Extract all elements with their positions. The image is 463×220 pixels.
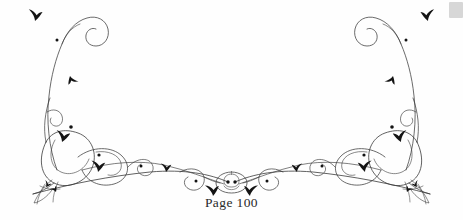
dot-icon <box>405 39 408 42</box>
leaf-icon <box>67 75 79 85</box>
dot-icon <box>56 39 59 42</box>
right-mid-scroll <box>400 98 418 142</box>
dot-icon <box>140 165 143 168</box>
scan-artifact-smudge <box>449 2 463 18</box>
scanned-book-page: Page 100 <box>0 0 463 220</box>
ornamental-flourish-illustration <box>0 0 463 220</box>
dot-icon <box>233 180 236 183</box>
right-side-mirror <box>235 17 430 204</box>
leaf-icon <box>420 8 437 23</box>
left-interlock-loop <box>78 149 128 186</box>
dot-icon <box>321 165 324 168</box>
dot-icon <box>69 125 73 129</box>
dot-icon <box>390 125 394 129</box>
dot-icon <box>97 153 100 156</box>
dot-icon <box>266 180 269 183</box>
leaf-icon <box>89 159 105 173</box>
left-mid-scroll <box>45 98 63 142</box>
flourish-strokes <box>33 17 430 204</box>
dot-icon <box>362 153 365 156</box>
center-rosette <box>216 172 247 193</box>
page-number-caption: Page 100 <box>0 195 463 211</box>
dot-icon <box>226 180 229 183</box>
leaf-icon <box>384 75 396 85</box>
leaf-icon <box>358 159 374 173</box>
dot-icon <box>195 180 198 183</box>
right-interlock-loop <box>335 149 385 186</box>
leaf-icon <box>26 8 43 23</box>
